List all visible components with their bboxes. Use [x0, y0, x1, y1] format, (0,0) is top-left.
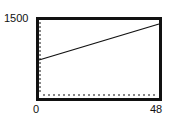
x-max-label: 48	[150, 103, 162, 115]
y-max-label: 1500	[4, 12, 28, 24]
plot-area	[36, 17, 162, 101]
x-min-label: 0	[33, 103, 39, 115]
